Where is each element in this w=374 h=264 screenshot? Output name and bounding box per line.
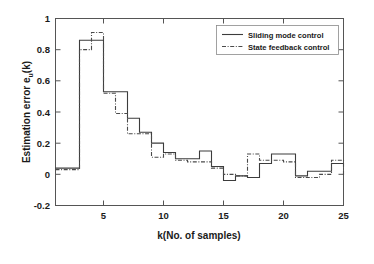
legend[interactable]: Sliding mode control State feedback cont… xyxy=(217,26,339,55)
x-tick-label: 5 xyxy=(101,210,107,221)
y-tick-label: 0.4 xyxy=(37,107,51,118)
x-tick-label: 15 xyxy=(218,210,229,221)
y-tick-label: 0.8 xyxy=(37,44,50,55)
y-tick-label: -0.2 xyxy=(34,200,50,211)
x-tick-label: 25 xyxy=(338,210,349,221)
chart-figure: 1 0.8 0.6 0.4 0.2 0 -0.2 5 10 15 20 25 k… xyxy=(0,0,374,264)
y-tick-label: 0.6 xyxy=(37,75,50,86)
y-tick-label: 1 xyxy=(45,13,51,24)
estimation-error-plot: 1 0.8 0.6 0.4 0.2 0 -0.2 5 10 15 20 25 k… xyxy=(0,0,374,264)
legend-label-state-feedback-control: State feedback control xyxy=(248,43,329,52)
legend-label-sliding-mode-control: Sliding mode control xyxy=(248,31,324,40)
y-tick-label: 0 xyxy=(45,169,50,180)
x-axis-title: k(No. of samples) xyxy=(157,230,240,241)
y-axis-title-main: Estimation error e xyxy=(21,77,32,163)
x-tick-label: 10 xyxy=(158,210,169,221)
x-tick-label: 20 xyxy=(278,210,289,221)
y-tick-label: 0.2 xyxy=(37,138,50,149)
y-axis-title-tail: (k) xyxy=(21,61,32,73)
